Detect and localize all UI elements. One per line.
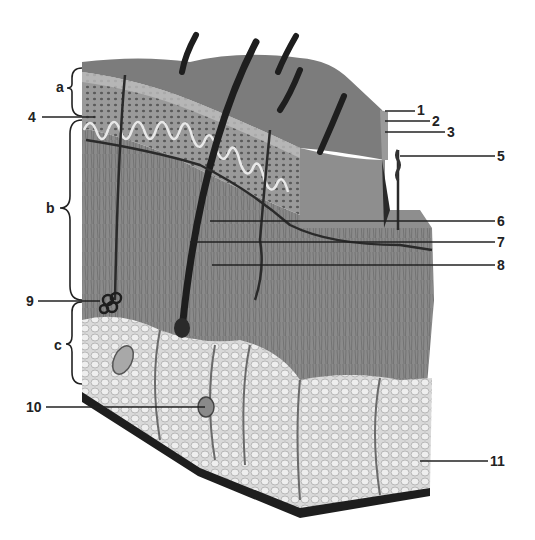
label-4: 4 — [28, 110, 36, 124]
label-layer-c: c — [54, 338, 62, 352]
epidermis-right — [300, 148, 432, 228]
label-layer-a: a — [56, 80, 64, 94]
label-9: 9 — [26, 294, 34, 308]
label-3: 3 — [447, 125, 455, 139]
brace-b — [60, 120, 82, 300]
label-7: 7 — [497, 235, 505, 249]
label-8: 8 — [497, 258, 505, 272]
label-2: 2 — [432, 114, 440, 128]
hair-bulb — [174, 318, 190, 338]
brace-a — [67, 68, 82, 116]
label-10: 10 — [26, 400, 42, 414]
layer-braces — [60, 68, 82, 384]
label-6: 6 — [497, 214, 505, 228]
brace-c — [66, 302, 82, 384]
label-layer-b: b — [46, 201, 55, 215]
label-1: 1 — [417, 103, 425, 117]
label-11: 11 — [490, 454, 505, 468]
skin-cross-section-diagram — [0, 0, 535, 540]
label-5: 5 — [497, 149, 505, 163]
